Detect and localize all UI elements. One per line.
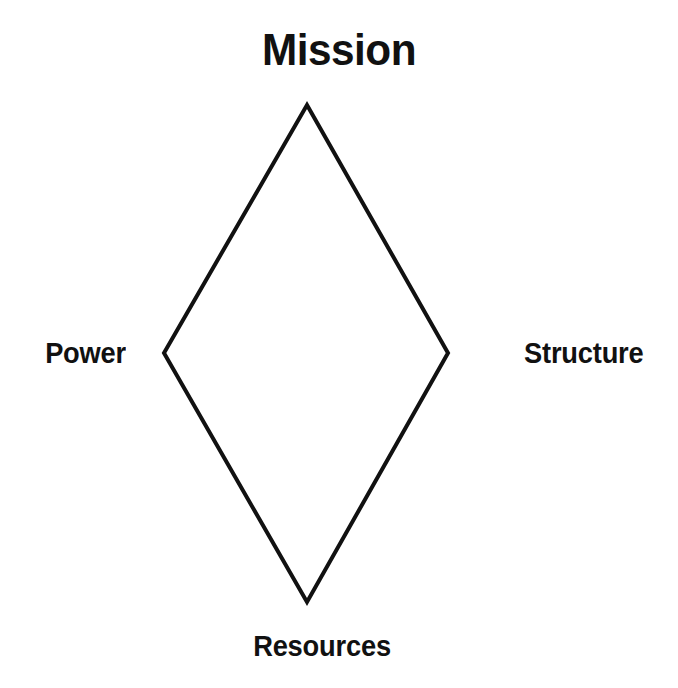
node-label-resources: Resources	[181, 632, 463, 661]
node-label-structure: Structure	[524, 339, 669, 368]
diamond-outline	[164, 105, 448, 602]
diagram-canvas: Mission Power Structure Resources	[0, 0, 678, 688]
node-label-mission: Mission	[20, 27, 657, 72]
node-label-power: Power	[8, 339, 126, 368]
